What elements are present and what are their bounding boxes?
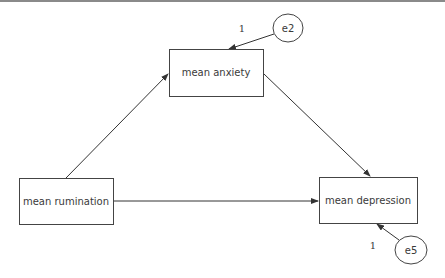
node-label: mean anxiety	[182, 67, 251, 78]
node-label: e2	[282, 23, 295, 34]
node-label: mean rumination	[23, 196, 109, 207]
node-mean-anxiety[interactable]: mean anxiety	[170, 50, 264, 97]
edge-rumination-to-anxiety	[66, 74, 168, 178]
path-diagram: mean anxiety mean rumination mean depres…	[0, 0, 445, 278]
node-e2[interactable]: e2	[273, 14, 303, 42]
node-mean-rumination[interactable]: mean rumination	[20, 179, 114, 225]
node-e5[interactable]: e5	[395, 236, 427, 264]
edge-anxiety-to-depression	[264, 74, 370, 176]
node-label: e5	[405, 245, 418, 256]
edge-e5-to-depression	[377, 224, 399, 240]
node-mean-depression[interactable]: mean depression	[320, 178, 418, 224]
weight-label-e5: 1	[370, 240, 376, 251]
weight-label-e2: 1	[239, 23, 245, 34]
edge-e2-to-anxiety	[229, 34, 274, 49]
node-label: mean depression	[325, 195, 411, 206]
